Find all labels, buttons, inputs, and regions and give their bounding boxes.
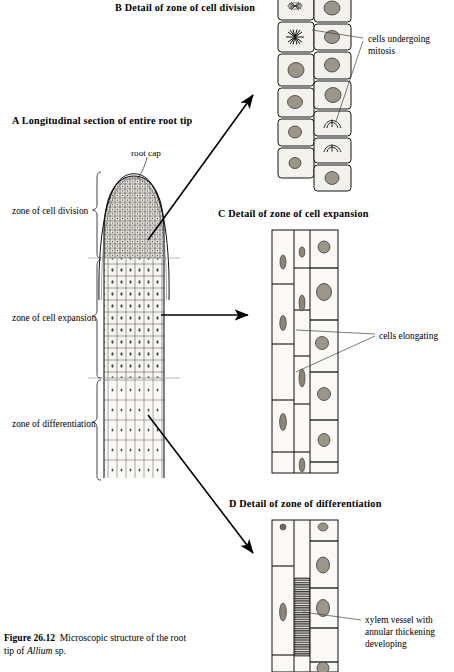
nucleus xyxy=(325,172,339,185)
illustration-layer xyxy=(0,0,454,672)
nucleus xyxy=(325,58,340,72)
nucleus xyxy=(289,158,301,169)
nucleus xyxy=(316,337,329,350)
nucleus xyxy=(299,247,305,257)
nucleus xyxy=(280,255,286,269)
nucleus xyxy=(318,388,331,401)
nucleus xyxy=(280,316,286,331)
nucleus xyxy=(317,662,329,672)
zone-braces xyxy=(93,172,102,480)
cell xyxy=(314,111,351,136)
nucleus xyxy=(299,369,305,387)
panel-a-root-tip xyxy=(88,157,180,480)
panel-d-detail xyxy=(272,520,361,672)
nucleus xyxy=(280,524,286,530)
panel-b-left-column xyxy=(278,0,314,178)
nucleus xyxy=(324,1,340,15)
arrow-to-panel-b xyxy=(148,95,253,240)
nucleus xyxy=(318,434,330,447)
nucleus xyxy=(318,523,328,531)
nucleus xyxy=(288,96,303,109)
panel-c-detail xyxy=(272,230,375,473)
cell xyxy=(314,138,351,163)
zone-cell-division-fill xyxy=(100,170,170,480)
nucleus xyxy=(317,284,332,301)
nucleus xyxy=(299,458,305,472)
nucleus xyxy=(289,126,302,138)
nucleus xyxy=(288,63,304,78)
nucleus xyxy=(299,295,305,311)
nucleus xyxy=(318,241,330,253)
nucleus xyxy=(280,414,287,431)
nucleus xyxy=(317,557,330,573)
figure-root-tip: B Detail of zone of cell division A Long… xyxy=(0,0,454,672)
nucleus xyxy=(325,88,341,103)
panel-b-right-column xyxy=(314,0,351,191)
xylem-vessel-annular-thickening xyxy=(295,578,310,656)
arrow-to-panel-d xyxy=(148,415,253,553)
panel-b-detail xyxy=(278,0,363,191)
nucleus xyxy=(280,603,287,621)
